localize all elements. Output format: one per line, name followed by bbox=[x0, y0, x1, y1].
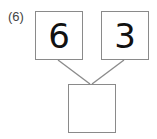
right-number: 3 bbox=[114, 16, 136, 56]
number-box-right: 3 bbox=[101, 11, 149, 60]
number-box-left: 6 bbox=[35, 11, 83, 60]
answer-box[interactable] bbox=[68, 84, 116, 133]
left-number: 6 bbox=[48, 16, 70, 56]
